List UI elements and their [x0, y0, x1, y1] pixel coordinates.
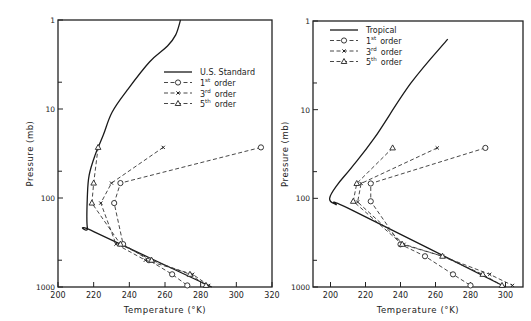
data-point-x-marker — [356, 200, 359, 203]
reference-profile-line — [83, 20, 212, 287]
legend-item: 1storder — [164, 77, 236, 88]
x-tick-label: 240 — [122, 291, 137, 300]
legend-label: Tropical — [365, 26, 397, 35]
legend-item: 1storder — [330, 35, 402, 46]
data-point-triangle-marker — [350, 198, 356, 203]
data-point-circle-marker — [450, 272, 455, 277]
y-tick-label: 100 — [41, 194, 56, 203]
legend-label: 3rdorder — [200, 88, 237, 99]
legend-item: U.S. Standard — [164, 68, 255, 77]
y-tick-label: 1 — [50, 16, 55, 25]
chart-canvas: 200220240260280300320Temperature (°K)110… — [0, 0, 531, 321]
x-tick-label: 240 — [393, 291, 408, 300]
legend-circle-marker — [175, 80, 180, 85]
figure: 200220240260280300320Temperature (°K)110… — [0, 0, 531, 321]
x-axis-label: Temperature (°K) — [376, 305, 460, 315]
legend-label: 3rdorder — [366, 46, 403, 57]
y-tick-label: 1 — [305, 17, 310, 26]
x-axis-label: Temperature (°K) — [123, 305, 207, 315]
series-5th-order — [89, 144, 209, 287]
series-3rd-order — [356, 146, 514, 287]
fit-line — [353, 148, 502, 286]
data-point-circle-marker — [368, 199, 373, 204]
legend-item: Tropical — [330, 26, 397, 35]
data-point-x-marker — [110, 181, 113, 184]
data-point-circle-marker — [185, 283, 190, 288]
fit-line — [114, 147, 261, 285]
legend: U.S. Standard1storder3rdorder5thorder — [164, 68, 255, 109]
legend-triangle-marker — [341, 59, 347, 64]
legend-label: U.S. Standard — [200, 68, 255, 77]
legend-item: 5thorder — [164, 98, 237, 109]
data-point-x-marker — [114, 243, 117, 246]
x-tick-label: 200 — [50, 291, 65, 300]
fit-line — [371, 148, 486, 286]
x-tick-label: 320 — [264, 291, 279, 300]
legend-label: 1storder — [366, 35, 402, 46]
legend-circle-marker — [341, 38, 346, 43]
data-point-circle-marker — [170, 272, 175, 277]
data-point-circle-marker — [112, 200, 117, 205]
data-point-x-marker — [436, 146, 439, 149]
series-3rd-order — [99, 146, 210, 287]
legend-item: 5thorder — [330, 56, 403, 67]
y-axis: 1101001000Pressure (mb) — [280, 17, 318, 292]
y-tick-label: 10 — [45, 105, 55, 114]
data-point-circle-marker — [368, 181, 373, 186]
data-point-circle-marker — [118, 180, 123, 185]
series-u-s-standard — [83, 20, 212, 287]
legend: Tropical1storder3rdorder5thorder — [330, 26, 403, 67]
data-point-triangle-marker — [390, 145, 396, 150]
x-tick-label: 220 — [358, 291, 373, 300]
data-point-triangle-marker — [91, 180, 97, 185]
plot-frame — [58, 20, 272, 287]
y-tick-label: 10 — [300, 106, 310, 115]
data-point-triangle-marker — [95, 144, 101, 149]
legend-label: 5thorder — [366, 56, 403, 67]
x-tick-label: 300 — [498, 291, 513, 300]
data-point-x-marker — [162, 146, 165, 149]
legend-label: 5thorder — [200, 98, 237, 109]
x-tick-label: 280 — [193, 291, 208, 300]
reference-profile-line — [330, 39, 506, 287]
data-point-triangle-marker — [89, 200, 95, 205]
right-panel-tropical: 200220240260280300Temperature (°K)110100… — [280, 17, 523, 315]
data-point-circle-marker — [468, 283, 473, 288]
y-tick-label: 1000 — [36, 283, 55, 292]
y-tick-label: 100 — [296, 194, 311, 203]
data-point-circle-marker — [483, 145, 488, 150]
x-tick-label: 260 — [428, 291, 443, 300]
y-axis-label: Pressure (mb) — [280, 121, 290, 187]
y-tick-label: 1000 — [291, 283, 310, 292]
x-tick-label: 260 — [157, 291, 172, 300]
fit-line — [92, 147, 206, 285]
left-panel-us-standard: 200220240260280300320Temperature (°K)110… — [25, 16, 280, 315]
data-point-circle-marker — [422, 254, 427, 259]
series-tropical — [330, 39, 506, 287]
x-tick-label: 300 — [229, 291, 244, 300]
fit-line — [101, 147, 209, 285]
x-tick-label: 280 — [463, 291, 478, 300]
legend-triangle-marker — [175, 101, 181, 106]
y-axis: 1101001000Pressure (mb) — [25, 16, 63, 292]
y-axis-label: Pressure (mb) — [25, 121, 35, 187]
data-point-circle-marker — [258, 145, 263, 150]
legend-item: 3rdorder — [164, 88, 237, 99]
legend-label: 1storder — [200, 77, 236, 88]
legend-item: 3rdorder — [330, 46, 403, 57]
x-tick-label: 220 — [86, 291, 101, 300]
x-tick-label: 200 — [323, 291, 338, 300]
series-1st-order — [112, 145, 264, 288]
